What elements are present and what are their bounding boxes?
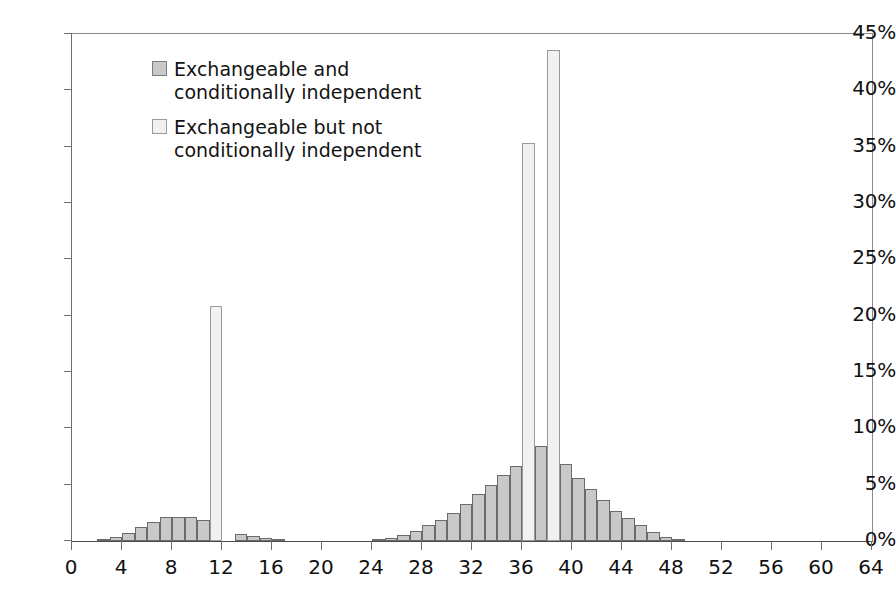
histogram-bar <box>460 504 473 541</box>
histogram-bar <box>435 520 448 541</box>
histogram-bar <box>210 306 223 541</box>
x-axis-tick-label: 40 <box>548 556 594 578</box>
x-axis-tick-label: 44 <box>598 556 644 578</box>
x-axis-tick-mark <box>521 541 522 550</box>
legend-entry: Exchangeable and conditionally independe… <box>152 58 452 104</box>
histogram-bar <box>447 513 460 541</box>
x-axis-tick-label: 28 <box>398 556 444 578</box>
histogram-bar <box>610 511 623 541</box>
y-axis-tick-label: 15% <box>838 360 896 380</box>
y-axis-tick-label: 45% <box>838 22 896 42</box>
histogram-bar <box>585 489 598 541</box>
x-axis-tick-label: 36 <box>498 556 544 578</box>
x-axis-tick-label: 4 <box>98 556 144 578</box>
histogram-bar <box>197 520 210 541</box>
histogram-bar <box>235 534 248 541</box>
histogram-bar <box>172 517 185 541</box>
histogram-bar <box>547 50 560 541</box>
legend-label: Exchangeable but not conditionally indep… <box>174 116 421 162</box>
y-axis-tick-label: 30% <box>838 191 896 211</box>
histogram-bar <box>510 466 523 541</box>
y-axis-tick-mark <box>64 146 72 147</box>
x-axis-tick-mark <box>671 541 672 550</box>
histogram-bar <box>660 537 673 542</box>
x-axis-tick-mark <box>271 541 272 550</box>
y-axis-tick-mark <box>64 371 72 372</box>
histogram-bar <box>597 500 610 541</box>
x-axis-tick-mark <box>871 541 872 550</box>
x-axis-tick-mark <box>171 541 172 550</box>
histogram-bar <box>497 475 510 541</box>
y-axis-tick-mark <box>64 258 72 259</box>
x-axis-tick-mark <box>721 541 722 550</box>
x-axis-tick-mark <box>121 541 122 550</box>
x-axis-tick-mark <box>371 541 372 550</box>
y-axis-tick-mark <box>64 202 72 203</box>
histogram-bar <box>485 485 498 541</box>
legend-swatch-icon <box>152 61 167 76</box>
histogram-bar <box>135 527 148 541</box>
histogram-bar <box>472 494 485 541</box>
y-axis-tick-mark <box>64 315 72 316</box>
histogram-chart: Exchangeable and conditionally independe… <box>0 0 896 596</box>
histogram-bar <box>272 539 285 541</box>
x-axis-tick-label: 56 <box>748 556 794 578</box>
histogram-bar <box>160 517 173 541</box>
y-axis-tick-mark <box>64 427 72 428</box>
legend-label: Exchangeable and conditionally independe… <box>174 58 421 104</box>
histogram-bar <box>122 533 135 541</box>
x-axis-tick-label: 64 <box>848 556 894 578</box>
histogram-bar <box>647 532 660 541</box>
x-axis-tick-label: 0 <box>48 556 94 578</box>
x-axis-tick-mark <box>821 541 822 550</box>
x-axis-tick-label: 20 <box>298 556 344 578</box>
histogram-bar <box>622 518 635 541</box>
histogram-bar <box>572 478 585 541</box>
x-axis-tick-label: 60 <box>798 556 844 578</box>
histogram-bar <box>410 531 423 541</box>
x-axis-tick-mark <box>421 541 422 550</box>
legend-swatch-icon <box>152 119 167 134</box>
x-axis-tick-mark <box>471 541 472 550</box>
x-axis-tick-mark <box>221 541 222 550</box>
x-axis-tick-mark <box>71 541 72 550</box>
histogram-bar <box>560 464 573 541</box>
histogram-bar <box>372 539 385 541</box>
histogram-bar <box>385 538 398 541</box>
histogram-bar <box>522 143 535 541</box>
x-axis-tick-label: 12 <box>198 556 244 578</box>
x-axis-tick-label: 52 <box>698 556 744 578</box>
x-axis-tick-mark <box>571 541 572 550</box>
y-axis-tick-label: 0% <box>838 529 896 549</box>
legend-entry: Exchangeable but not conditionally indep… <box>152 116 452 162</box>
x-axis-tick-mark <box>771 541 772 550</box>
x-axis-tick-label: 48 <box>648 556 694 578</box>
y-axis-tick-label: 35% <box>838 135 896 155</box>
y-axis-tick-label: 10% <box>838 416 896 436</box>
y-axis-tick-label: 20% <box>838 304 896 324</box>
y-axis-tick-mark <box>64 89 72 90</box>
histogram-bar <box>672 539 685 541</box>
histogram-bar <box>97 539 110 541</box>
histogram-bar <box>110 537 123 541</box>
histogram-bar <box>185 517 198 541</box>
y-axis-tick-mark <box>64 484 72 485</box>
x-axis-tick-label: 8 <box>148 556 194 578</box>
histogram-bar <box>397 535 410 541</box>
x-axis-tick-label: 32 <box>448 556 494 578</box>
y-axis-tick-label: 5% <box>838 473 896 493</box>
histogram-bar <box>260 538 273 541</box>
y-axis-tick-label: 40% <box>838 78 896 98</box>
histogram-bar <box>635 525 648 541</box>
histogram-bar <box>247 536 260 541</box>
x-axis-tick-mark <box>621 541 622 550</box>
y-axis-tick-label: 25% <box>838 247 896 267</box>
chart-legend: Exchangeable and conditionally independe… <box>152 58 452 174</box>
histogram-bar <box>147 522 160 541</box>
x-axis-tick-mark <box>321 541 322 550</box>
x-axis-tick-label: 24 <box>348 556 394 578</box>
y-axis-tick-mark <box>64 33 72 34</box>
x-axis-tick-label: 16 <box>248 556 294 578</box>
histogram-bar <box>422 525 435 541</box>
histogram-bar <box>535 446 548 541</box>
